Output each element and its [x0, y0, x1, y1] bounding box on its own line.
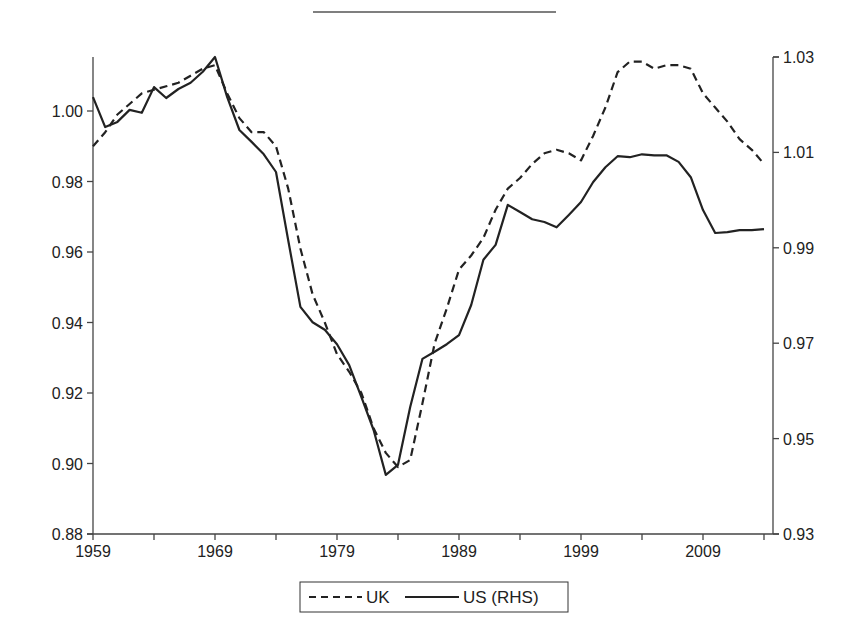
x-tick-label: 2009	[685, 543, 721, 560]
right-y-tick-label: 1.03	[783, 49, 814, 66]
left-y-tick-label: 0.90	[52, 456, 83, 473]
right-y-tick-label: 0.97	[783, 335, 814, 352]
line-chart: 0.880.900.920.940.960.981.000.930.950.97…	[0, 0, 857, 641]
legend-us-label: US (RHS)	[463, 588, 539, 607]
left-y-tick-label: 0.88	[52, 526, 83, 543]
axes: 0.880.900.920.940.960.981.000.930.950.97…	[52, 49, 814, 560]
left-y-tick-label: 0.96	[52, 244, 83, 261]
x-tick-label: 1979	[319, 543, 355, 560]
legend: UK US (RHS)	[300, 582, 568, 612]
right-y-tick-label: 0.99	[783, 240, 814, 257]
x-tick-label: 1989	[441, 543, 477, 560]
x-tick-label: 1999	[563, 543, 599, 560]
us-series-line	[93, 57, 764, 475]
left-y-tick-label: 1.00	[52, 103, 83, 120]
uk-series-line	[93, 62, 764, 467]
right-y-tick-label: 1.01	[783, 144, 814, 161]
legend-uk-label: UK	[366, 588, 390, 607]
right-y-tick-label: 0.95	[783, 431, 814, 448]
left-y-tick-label: 0.98	[52, 174, 83, 191]
x-tick-label: 1959	[75, 543, 111, 560]
series-lines	[93, 57, 764, 475]
left-y-tick-label: 0.94	[52, 315, 83, 332]
left-y-tick-label: 0.92	[52, 385, 83, 402]
right-y-tick-label: 0.93	[783, 526, 814, 543]
x-tick-label: 1969	[197, 543, 233, 560]
